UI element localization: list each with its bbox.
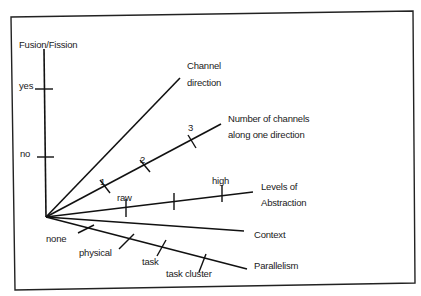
- axis-label-levels-of-abstraction-line1: Levels of: [261, 181, 297, 193]
- axis-label-levels-of-abstraction-line2: Abstraction: [261, 197, 306, 209]
- axis-channel-direction: [46, 78, 180, 217]
- tick-label-none: none: [46, 233, 66, 245]
- axis-label-number-of-channels-line1: Number of channels: [228, 113, 309, 125]
- tick-label-no: no: [20, 148, 30, 160]
- tick-label-2: 2: [140, 154, 145, 166]
- tick-label-physical: physical: [79, 247, 112, 259]
- axis-label-channel-direction-line2: direction: [187, 77, 221, 89]
- frame-border: [11, 11, 415, 290]
- tick-label-task-cluster: task cluster: [166, 268, 212, 280]
- tick-label-task: task: [142, 256, 159, 268]
- axis-fusion-fission: [44, 49, 46, 217]
- axis-number-of-channels: [46, 124, 221, 217]
- axis-label-fusion-fission: Fusion/Fission: [19, 39, 77, 51]
- tick-label-yes: yes: [19, 80, 33, 92]
- tick-label-3: 3: [188, 122, 193, 134]
- tick-label-1: 1: [100, 176, 105, 188]
- axis-label-channel-direction-line1: Channel: [187, 60, 221, 72]
- axis-label-context: Context: [254, 229, 285, 241]
- tick-label-high: high: [212, 175, 229, 187]
- axis-label-number-of-channels-line2: along one direction: [228, 129, 304, 141]
- tick-label-raw: raw: [117, 192, 132, 204]
- axis-label-parallelism: Parallelism: [254, 260, 298, 272]
